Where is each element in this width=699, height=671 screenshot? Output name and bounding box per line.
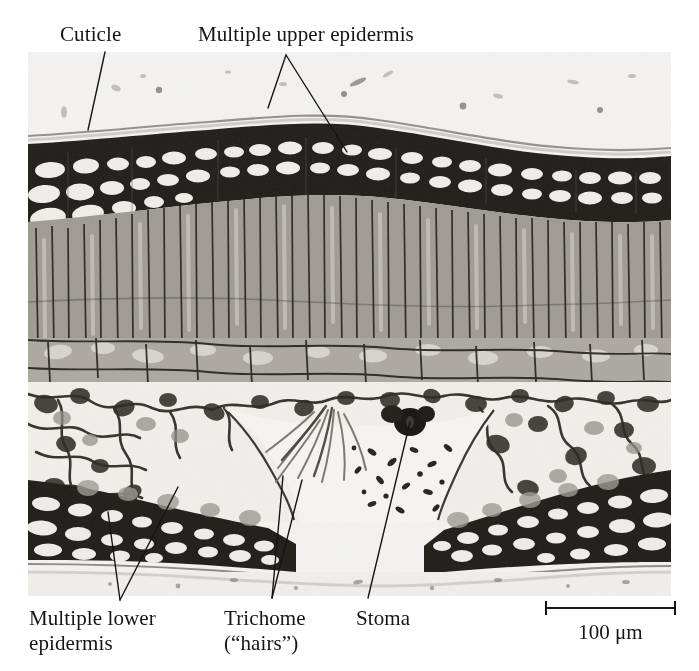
label-stoma: Stoma (356, 606, 410, 631)
scale-bar: 100 μm (545, 600, 676, 656)
scale-bar-line (545, 607, 676, 609)
micrograph-image (28, 52, 671, 596)
scale-bar-label: 100 μm (545, 620, 676, 645)
scale-bar-cap-left (545, 601, 547, 615)
micrograph-figure: Cuticle Multiple upper epidermis Multipl… (0, 0, 699, 671)
scale-bar-cap-right (674, 601, 676, 615)
micrograph-canvas (28, 52, 671, 596)
label-multiple-upper-epidermis: Multiple upper epidermis (198, 22, 414, 47)
label-cuticle: Cuticle (60, 22, 121, 47)
label-trichome: Trichome (“hairs”) (224, 606, 306, 656)
label-multiple-lower-epidermis: Multiple lower epidermis (29, 606, 156, 656)
